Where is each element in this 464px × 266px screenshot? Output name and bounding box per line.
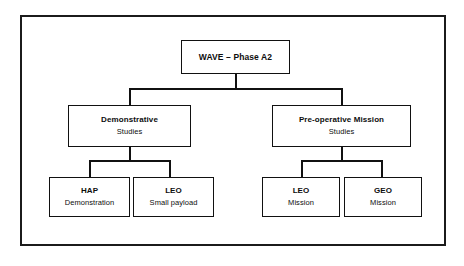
connector-right-bus-to-leaf3 xyxy=(301,160,303,177)
node-label-line1: WAVE – Phase A2 xyxy=(199,52,272,63)
connector-right-sub-bus xyxy=(301,160,383,162)
node-leo-small-payload[interactable]: LEO Small payload xyxy=(133,177,214,217)
node-leo-mission[interactable]: LEO Mission xyxy=(262,177,340,217)
node-label-line2: Studies xyxy=(329,127,354,136)
node-label-line2: Studies xyxy=(117,127,142,136)
node-wave-phase-a2[interactable]: WAVE – Phase A2 xyxy=(181,40,290,74)
node-label-line2: Mission xyxy=(288,198,314,207)
node-geo-mission[interactable]: GEO Mission xyxy=(344,177,422,217)
node-demonstrative-studies[interactable]: Demonstrative Studies xyxy=(68,105,191,147)
connector-right-bus-to-leaf4 xyxy=(381,160,383,177)
node-label-line1: Demonstrative xyxy=(101,115,158,125)
connector-left-sub-bus xyxy=(89,160,171,162)
node-label-line1: HAP xyxy=(81,186,98,196)
connector-main-bus xyxy=(129,88,343,90)
node-label-line2: Mission xyxy=(370,198,396,207)
node-label-line2: Demonstration xyxy=(65,198,114,207)
node-label-line1: LEO xyxy=(293,186,310,196)
figure-frame: WAVE – Phase A2 Demonstrative Studies Pr… xyxy=(20,15,446,246)
node-hap-demonstration[interactable]: HAP Demonstration xyxy=(49,177,130,217)
connector-bus-to-left-branch xyxy=(129,88,131,105)
connector-left-bus-to-leaf2 xyxy=(169,160,171,177)
connector-left-bus-to-leaf1 xyxy=(89,160,91,177)
node-label-line1: Pre-operative Mission xyxy=(299,115,384,125)
connector-bus-to-right-branch xyxy=(341,88,343,105)
node-label-line2: Small payload xyxy=(150,198,198,207)
node-label-line1: LEO xyxy=(165,186,182,196)
node-label-line1: GEO xyxy=(374,186,392,196)
node-pre-operative-mission-studies[interactable]: Pre-operative Mission Studies xyxy=(272,105,411,147)
diagram-canvas: WAVE – Phase A2 Demonstrative Studies Pr… xyxy=(0,0,464,266)
